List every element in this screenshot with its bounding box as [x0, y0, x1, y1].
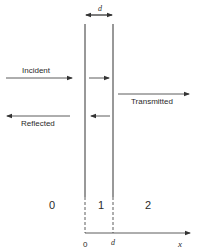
slab-diagram: d Incident Transmitted Reflected 0 1 2 0…: [0, 0, 197, 251]
reflected-label: Reflected: [21, 119, 55, 128]
region-2-label: 2: [145, 199, 151, 211]
incident-label: Incident: [22, 66, 51, 75]
transmitted-label: Transmitted: [131, 97, 173, 106]
axis-d-label: d: [111, 238, 116, 247]
region-1-label: 1: [98, 199, 104, 211]
thickness-label: d: [98, 4, 103, 13]
axis-x-label: x: [177, 239, 182, 249]
axis-origin-label: 0: [83, 240, 88, 249]
region-0-label: 0: [49, 199, 55, 211]
